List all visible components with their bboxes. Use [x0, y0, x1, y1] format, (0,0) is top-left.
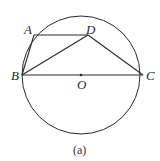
segment-dc [88, 35, 143, 75]
label-c: C [146, 69, 155, 82]
label-b: B [11, 69, 19, 82]
center-point-o [80, 74, 83, 77]
geometry-figure: A D B C O (a) [0, 0, 160, 161]
label-a: A [24, 23, 32, 36]
figure-caption: (a) [73, 144, 86, 156]
label-o: O [77, 78, 86, 91]
label-d: D [86, 23, 95, 36]
